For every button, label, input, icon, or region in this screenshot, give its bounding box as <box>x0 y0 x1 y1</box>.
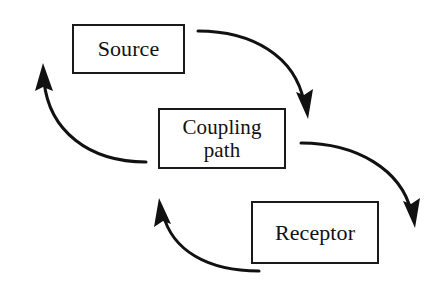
edge-receptor-to-coupling <box>154 198 259 271</box>
edge-coupling-to-source-line <box>44 81 146 162</box>
edge-coupling-to-receptor-arrowhead-icon <box>403 198 420 228</box>
node-source: Source <box>72 24 185 74</box>
diagram-canvas: Source Coupling path Receptor <box>0 0 446 290</box>
node-coupling-path: Coupling path <box>158 108 286 169</box>
edge-source-to-coupling-arrowhead-icon <box>296 89 313 119</box>
node-receptor: Receptor <box>251 201 379 264</box>
node-source-label: Source <box>94 37 164 61</box>
edge-source-to-coupling-line <box>198 31 304 102</box>
edge-coupling-to-source-arrowhead-icon <box>35 63 53 91</box>
node-coupling-path-label: Coupling path <box>179 116 266 161</box>
edge-source-to-coupling <box>198 31 313 119</box>
edge-receptor-to-coupling-arrowhead-icon <box>154 198 171 227</box>
edge-coupling-to-source <box>35 63 146 162</box>
edge-receptor-to-coupling-line <box>163 214 259 271</box>
node-receptor-label: Receptor <box>271 221 359 245</box>
